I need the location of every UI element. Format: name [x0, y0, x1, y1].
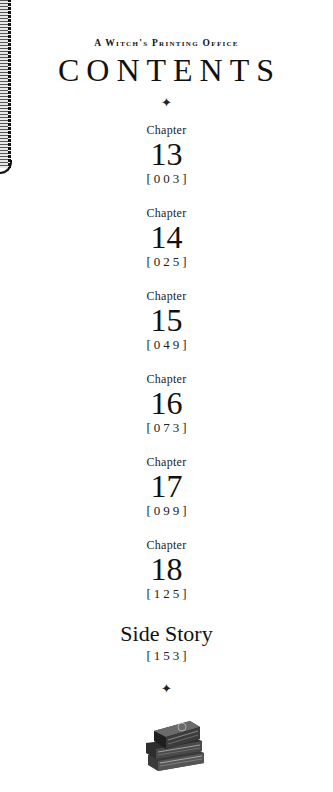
chapter-number: 14: [0, 222, 333, 252]
star-ornament-icon: ✦: [0, 96, 333, 109]
chapter-label: Chapter: [0, 538, 333, 552]
chapter-number: 13: [0, 139, 333, 169]
chapter-page: [003]: [0, 171, 333, 187]
chapter-label: Chapter: [0, 455, 333, 469]
star-ornament-icon: ✦: [0, 682, 333, 695]
books-icon: [140, 705, 212, 777]
toc-entry-chapter-18[interactable]: Chapter 18 [125]: [0, 538, 333, 602]
chapter-label: Chapter: [0, 206, 333, 220]
chapter-label: Chapter: [0, 123, 333, 137]
chapter-page: [049]: [0, 337, 333, 353]
side-story-title: Side Story: [0, 622, 333, 646]
book-subtitle: A Witch's Printing Office: [0, 38, 333, 48]
stacked-books-illustration: [140, 705, 212, 777]
chapter-number: 17: [0, 471, 333, 501]
chapter-number: 15: [0, 305, 333, 335]
chapter-page: [073]: [0, 420, 333, 436]
chapter-page: [099]: [0, 503, 333, 519]
chapter-page: [025]: [0, 254, 333, 270]
toc-entry-chapter-16[interactable]: Chapter 16 [073]: [0, 372, 333, 436]
chapter-label: Chapter: [0, 289, 333, 303]
chapter-number: 18: [0, 554, 333, 584]
toc-entry-side-story[interactable]: Side Story [153]: [0, 622, 333, 664]
side-story-page: [153]: [0, 648, 333, 664]
page-title: CONTENTS: [0, 52, 333, 89]
chapter-page: [125]: [0, 586, 333, 602]
toc-entry-chapter-13[interactable]: Chapter 13 [003]: [0, 123, 333, 187]
toc-entry-chapter-15[interactable]: Chapter 15 [049]: [0, 289, 333, 353]
toc-entry-chapter-14[interactable]: Chapter 14 [025]: [0, 206, 333, 270]
toc-entry-chapter-17[interactable]: Chapter 17 [099]: [0, 455, 333, 519]
chapter-number: 16: [0, 388, 333, 418]
chapter-label: Chapter: [0, 372, 333, 386]
